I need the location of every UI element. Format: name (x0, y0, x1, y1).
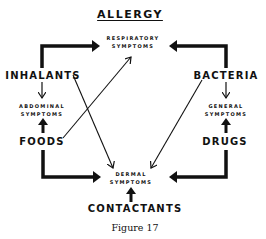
arrow-inhalants-to-dermal (73, 75, 113, 168)
node-inhalants: INHALANTS (5, 70, 81, 81)
node-general-line2: SYMPTOMS (205, 110, 248, 118)
node-general-symptoms: GENERAL SYMPTOMS (205, 102, 248, 118)
node-bacteria: BACTERIA (193, 70, 258, 81)
node-contactants: CONTACTANTS (88, 203, 183, 214)
arrow-bacteria-to-respiratory (169, 40, 226, 68)
arrow-inhalants-to-respiratory (42, 40, 100, 68)
node-abdominal-symptoms: ABDOMINAL SYMPTOMS (19, 102, 65, 118)
arrow-contactants-to-dermal (126, 187, 136, 202)
node-abdominal-line1: ABDOMINAL (19, 102, 65, 110)
diagram-title: ALLERGY (97, 8, 163, 21)
node-drugs: DRUGS (202, 136, 248, 147)
node-respiratory-line2: SYMPTOMS (107, 42, 160, 50)
arrow-drugs-to-dermal (169, 150, 226, 183)
figure-caption: Figure 17 (111, 222, 158, 233)
arrow-bacteria-to-dermal (151, 80, 202, 168)
arrow-drugs-to-general (221, 118, 231, 133)
arrow-foods-to-abdominal (38, 118, 48, 133)
node-dermal-symptoms: DERMAL SYMPTOMS (110, 170, 153, 186)
node-dermal-line1: DERMAL (110, 170, 153, 178)
node-dermal-line2: SYMPTOMS (110, 178, 153, 186)
node-general-line1: GENERAL (205, 102, 248, 110)
node-respiratory-symptoms: RESPIRATORY SYMPTOMS (107, 34, 160, 50)
node-foods: FOODS (19, 136, 64, 147)
node-respiratory-line1: RESPIRATORY (107, 34, 160, 42)
arrow-foods-to-dermal (43, 150, 101, 183)
node-abdominal-line2: SYMPTOMS (19, 110, 65, 118)
